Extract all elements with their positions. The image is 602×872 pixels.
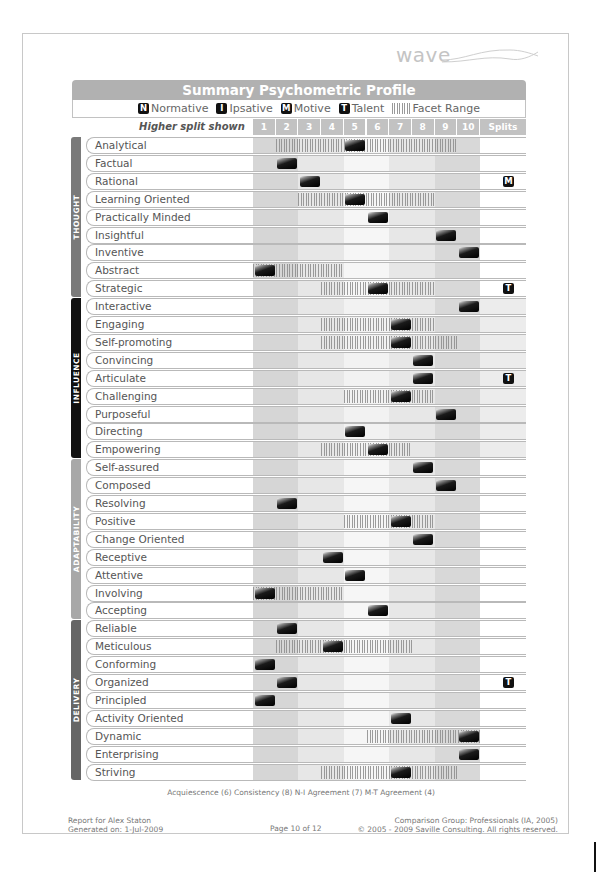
facet-range	[344, 390, 435, 403]
score-cell	[276, 532, 299, 547]
score-cell	[344, 210, 367, 225]
score-cell	[321, 747, 344, 762]
score-cell	[298, 711, 321, 726]
score-cell	[321, 729, 344, 744]
score-cell	[457, 371, 480, 386]
section-label: THOUGHT	[72, 195, 81, 240]
section-tab-influence: INFLUENCE	[71, 298, 81, 458]
score-cell	[344, 156, 367, 171]
score-cell	[435, 532, 458, 547]
dimension-label: Interactive	[86, 298, 253, 315]
score-grid	[253, 495, 526, 512]
facet-range	[321, 336, 457, 349]
score-cell	[412, 675, 435, 690]
score-cell	[367, 711, 390, 726]
score-cell	[253, 245, 276, 260]
legend-item: NNormative	[138, 102, 208, 115]
score-cell	[253, 675, 276, 690]
score-cell	[389, 371, 412, 386]
score-cell	[367, 263, 390, 278]
score-cell	[276, 210, 299, 225]
dimension-label: Articulate	[86, 370, 253, 387]
profile-row: Reliable	[86, 620, 526, 637]
split-cell	[480, 442, 526, 457]
score-cell	[253, 317, 276, 332]
score-grid	[253, 423, 526, 440]
score-cell	[344, 371, 367, 386]
score-cell	[321, 174, 344, 189]
score-cell	[367, 621, 390, 636]
score-cell	[253, 371, 276, 386]
score-cell	[253, 496, 276, 511]
score-grid	[253, 513, 526, 530]
section-label: DELIVERY	[72, 678, 81, 723]
score-cell	[389, 174, 412, 189]
profile-row: Purposeful	[86, 406, 526, 423]
score-cell	[412, 156, 435, 171]
score-cell	[253, 407, 276, 422]
profile-row: Resolving	[86, 495, 526, 512]
score-cell	[253, 568, 276, 583]
score-grid	[253, 602, 526, 619]
score-grid	[253, 746, 526, 763]
score-grid	[253, 459, 526, 476]
motive-icon: M	[281, 103, 292, 114]
split-cell	[480, 228, 526, 243]
score-cell	[321, 603, 344, 618]
score-cell	[298, 299, 321, 314]
score-cell	[253, 460, 276, 475]
score-marker	[368, 283, 388, 294]
profile-row: Striving	[86, 764, 526, 781]
split-cell	[480, 621, 526, 636]
score-cell	[253, 478, 276, 493]
dimension-label: Change Oriented	[86, 531, 253, 548]
score-cell	[321, 711, 344, 726]
scale-column-10: 10	[457, 119, 480, 135]
score-cell	[367, 693, 390, 708]
score-cell	[435, 693, 458, 708]
score-cell	[435, 675, 458, 690]
score-cell	[457, 603, 480, 618]
score-marker	[323, 641, 343, 652]
section-tab-adaptability: ADAPTABILITY	[71, 459, 81, 619]
split-cell	[480, 138, 526, 153]
facet-range-icon	[392, 103, 410, 114]
page-number: Page 10 of 12	[270, 824, 322, 833]
score-cell	[344, 496, 367, 511]
score-cell	[389, 245, 412, 260]
score-grid: T	[253, 280, 526, 297]
section-tab-delivery: DELIVERY	[71, 620, 81, 780]
score-grid	[253, 764, 526, 781]
profile-row: Learning Oriented	[86, 191, 526, 208]
legend-item: MMotive	[281, 102, 331, 115]
score-cell	[457, 478, 480, 493]
dimension-label: Insightful	[86, 227, 253, 244]
split-cell	[480, 496, 526, 511]
report-for: Report for Alex Staton	[68, 816, 163, 825]
score-cell	[276, 245, 299, 260]
score-cell	[367, 586, 390, 601]
score-cell	[276, 281, 299, 296]
score-grid	[253, 406, 526, 423]
profile-row: ArticulateT	[86, 370, 526, 387]
score-cell	[389, 263, 412, 278]
scale-column-6: 6	[367, 119, 390, 135]
dimension-label: Engaging	[86, 316, 253, 333]
split-cell	[480, 407, 526, 422]
score-cell	[457, 460, 480, 475]
score-cell	[412, 550, 435, 565]
score-cell	[321, 371, 344, 386]
score-cell	[321, 407, 344, 422]
score-grid	[253, 298, 526, 315]
score-cell	[367, 496, 390, 511]
score-cell	[298, 729, 321, 744]
score-marker	[391, 319, 411, 330]
score-cell	[298, 514, 321, 529]
legend-item: TTalent	[339, 102, 385, 115]
motive-icon: M	[503, 176, 514, 187]
split-cell	[480, 245, 526, 260]
split-cell	[480, 156, 526, 171]
profile-row: Dynamic	[86, 728, 526, 745]
profile-row: Principled	[86, 692, 526, 709]
scale-column-2: 2	[276, 119, 299, 135]
